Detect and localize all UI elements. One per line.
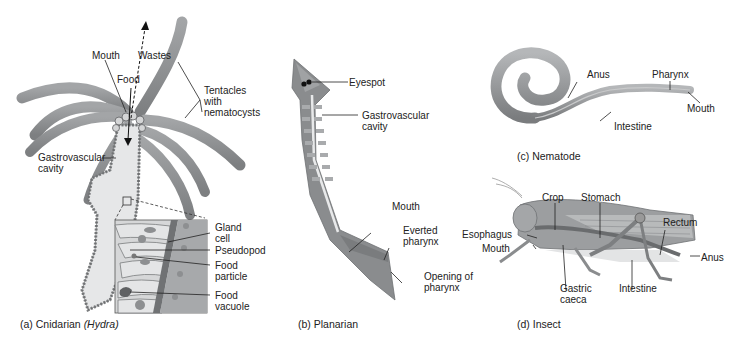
label-food-vacuole-line2: vacuole — [215, 301, 249, 312]
label-crop: Crop — [542, 192, 564, 203]
label-stomach: Stomach — [581, 192, 620, 203]
label-gastric-caeca-line2: caeca — [560, 294, 587, 305]
label-pharynx: Pharynx — [652, 69, 689, 80]
label-wastes: Wastes — [138, 50, 171, 61]
label-food-particle: Food — [215, 260, 238, 271]
label-gland-cell: Gland — [215, 222, 242, 233]
label-intestine: Intestine — [614, 121, 652, 132]
nematode-illustration — [496, 53, 690, 118]
label-tentacles: Tentacles — [204, 85, 246, 96]
label-anus: Anus — [587, 69, 610, 80]
label-mouth: Mouth — [92, 50, 120, 61]
label-intestine: Intestine — [619, 283, 657, 294]
label-gastric-caeca: Gastric — [560, 283, 592, 294]
label-food-particle-line2: particle — [215, 271, 247, 282]
label-gastrovascular-cavity: Gastrovascular — [362, 110, 429, 121]
label-gland-cell-line2: cell — [215, 233, 230, 244]
label-mouth: Mouth — [687, 103, 715, 114]
caption-planarian: (b) Planarian — [298, 318, 358, 330]
label-everted-pharynx-line2: pharynx — [403, 236, 439, 247]
label-tentacles-line2: with — [204, 96, 222, 107]
label-gastrovascular-cavity-line2: cavity — [38, 163, 64, 174]
label-mouth: Mouth — [392, 201, 420, 212]
label-everted-pharynx: Everted — [403, 225, 437, 236]
caption-nematode: (c) Nematode — [517, 150, 581, 162]
label-gastrovascular-cavity-line2: cavity — [362, 121, 388, 132]
caption-cnidarian: (a) Cnidarian (Hydra) — [20, 318, 119, 330]
label-opening-of-pharynx: Opening of — [424, 271, 473, 282]
label-eyespot: Eyespot — [349, 77, 385, 88]
label-tentacles-line3: nematocysts — [204, 107, 260, 118]
label-rectum: Rectum — [663, 217, 697, 228]
label-gastrovascular-cavity: Gastrovascular — [38, 152, 105, 163]
caption-cnidarian-text: (a) Cnidarian — [20, 318, 84, 330]
caption-cnidarian-italic: (Hydra) — [84, 318, 119, 330]
label-pseudopod: Pseudopod — [215, 245, 266, 256]
label-food: Food — [117, 74, 140, 85]
label-esophagus: Esophagus — [462, 229, 512, 240]
label-opening-of-pharynx-line2: pharynx — [424, 282, 460, 293]
planarian-illustration — [292, 59, 395, 300]
caption-insect: (d) Insect — [517, 318, 561, 330]
label-anus: Anus — [701, 252, 724, 263]
label-food-vacuole: Food — [215, 290, 238, 301]
label-mouth: Mouth — [482, 243, 510, 254]
